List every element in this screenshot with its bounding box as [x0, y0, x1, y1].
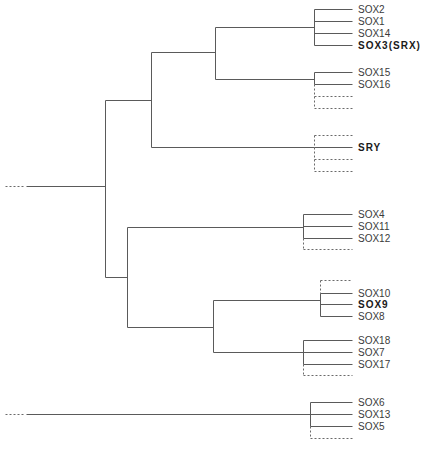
- leaf-label-sox8: SOX8: [358, 311, 385, 322]
- phylogenetic-tree: SOX2SOX1SOX14SOX3(SRX)SOX15SOX16SRYSOX4S…: [0, 0, 431, 449]
- leaf-label-sox15: SOX15: [358, 67, 391, 78]
- leaf-label-sox11: SOX11: [358, 221, 390, 232]
- leaf-label-sox16: SOX16: [358, 79, 391, 90]
- leaf-label-sox3-srx-: SOX3(SRX): [358, 40, 421, 51]
- leaf-label-sox7: SOX7: [358, 347, 385, 358]
- leaf-label-sox17: SOX17: [358, 359, 391, 370]
- leaf-label-sox13: SOX13: [358, 409, 391, 420]
- leaf-label-sox2: SOX2: [358, 4, 385, 15]
- leaf-label-sox5: SOX5: [358, 421, 385, 432]
- leaf-label-sox9: SOX9: [358, 299, 389, 310]
- leaf-label-sox6: SOX6: [358, 397, 385, 408]
- leaf-label-sox18: SOX18: [358, 335, 391, 346]
- leaf-label-sox10: SOX10: [358, 288, 391, 299]
- leaf-label-sox4: SOX4: [358, 209, 385, 220]
- leaf-label-sox1: SOX1: [358, 16, 385, 27]
- leaf-label-sox12: SOX12: [358, 233, 391, 244]
- leaf-label-sox14: SOX14: [358, 28, 391, 39]
- leaf-label-sry: SRY: [358, 142, 381, 153]
